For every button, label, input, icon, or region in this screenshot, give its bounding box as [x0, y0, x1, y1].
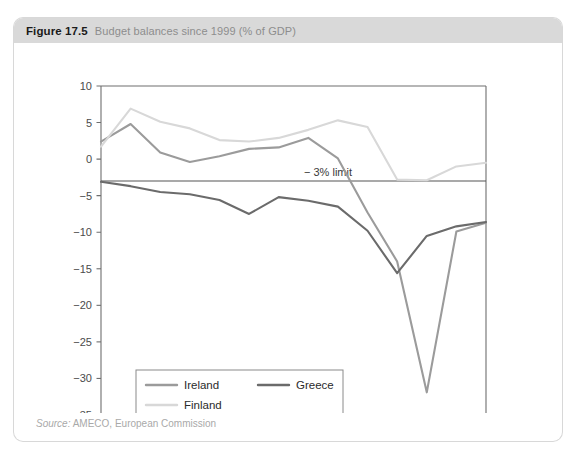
- y-tick-label: 10: [80, 80, 92, 92]
- legend-label-finland: Finland: [184, 399, 222, 411]
- source-text: AMECO, European Commission: [73, 418, 216, 429]
- series-line-ireland: [101, 124, 486, 392]
- chart-plot-area: 1050−5−10−15−20−25−30−35 199920002001200…: [14, 43, 562, 413]
- series-lines: [101, 109, 486, 393]
- figure-caption: Budget balances since 1999 (% of GDP): [95, 25, 296, 37]
- y-tick-label: −35: [73, 409, 92, 413]
- chart-legend: IrelandGreeceFinland: [136, 370, 343, 413]
- y-tick-label: 5: [86, 117, 92, 129]
- series-line-finland: [101, 109, 486, 181]
- figure-number: Figure 17.5: [26, 25, 88, 37]
- y-tick-label: −30: [73, 372, 92, 384]
- legend-box: [136, 370, 343, 413]
- series-line-greece: [101, 182, 486, 273]
- y-tick-label: 0: [86, 153, 92, 165]
- y-tick-label: −25: [73, 336, 92, 348]
- y-tick-label: −5: [79, 190, 92, 202]
- budget-balance-line-chart: 1050−5−10−15−20−25−30−35 199920002001200…: [14, 43, 562, 413]
- legend-label-greece: Greece: [296, 379, 334, 391]
- source-label: Source:: [36, 418, 70, 429]
- figure-card: Figure 17.5 Budget balances since 1999 (…: [14, 18, 562, 441]
- y-tick-label: −15: [73, 263, 92, 275]
- x-axis: 1999200020012002200320042005200620072008…: [89, 86, 498, 413]
- figure-header: Figure 17.5 Budget balances since 1999 (…: [14, 18, 562, 43]
- y-tick-label: −20: [73, 299, 92, 311]
- source-note: Source: AMECO, European Commission: [36, 418, 216, 429]
- legend-label-ireland: Ireland: [184, 379, 219, 391]
- y-tick-label: −10: [73, 226, 92, 238]
- y-axis: 1050−5−10−15−20−25−30−35: [73, 80, 101, 413]
